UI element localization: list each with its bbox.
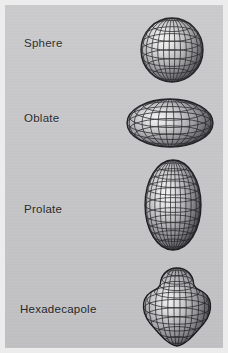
shape-label-prolate: Prolate	[24, 203, 62, 215]
hexadecapole-wireframe-svg	[137, 261, 217, 348]
hexadecapole-shape	[137, 261, 217, 348]
figure-container: Sphere	[0, 0, 228, 353]
oblate-wireframe-svg	[122, 92, 218, 154]
oblate-shape	[122, 92, 218, 154]
sphere-wireframe-svg	[136, 13, 208, 87]
figure-panel: Sphere	[5, 5, 223, 348]
prolate-shape	[139, 155, 207, 255]
shape-label-oblate: Oblate	[24, 112, 59, 124]
shape-label-hexadecapole: Hexadecapole	[20, 303, 97, 315]
prolate-wireframe-svg	[139, 155, 207, 255]
shape-label-sphere: Sphere	[24, 37, 63, 49]
sphere-shape	[136, 13, 208, 87]
